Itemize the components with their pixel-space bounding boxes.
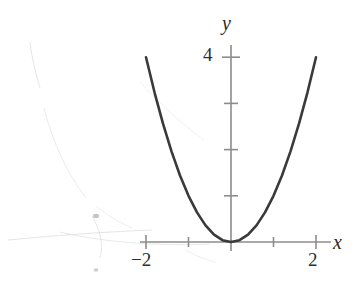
x-axis-label: x — [333, 232, 342, 252]
y-axis-label: y — [222, 13, 231, 33]
x-tick-label-2: 2 — [308, 250, 318, 269]
parabola-figure: y x 4 −2 2 — [0, 0, 363, 286]
y-tick-label-4: 4 — [203, 45, 213, 64]
plot-canvas — [0, 0, 363, 286]
scan-artifacts — [8, 42, 216, 272]
x-tick-label-neg2: −2 — [131, 250, 151, 269]
